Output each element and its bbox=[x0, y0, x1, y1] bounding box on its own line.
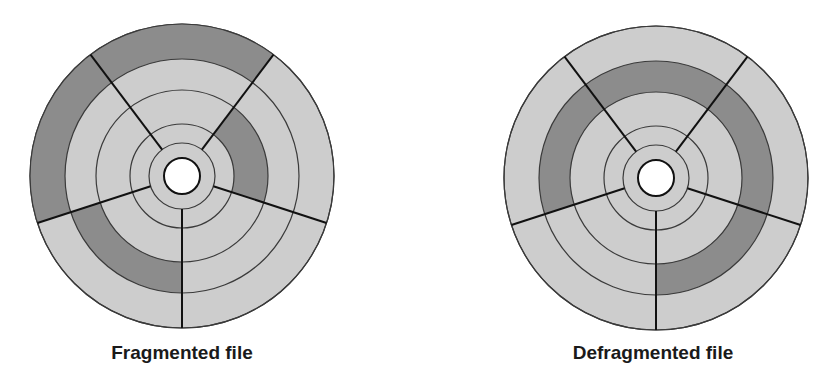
defragmented-file-label: Defragmented file bbox=[573, 342, 733, 364]
defragmented-disk bbox=[504, 26, 808, 330]
fragmented-file-label: Fragmented file bbox=[111, 342, 252, 364]
fragmented-disk bbox=[30, 24, 334, 328]
spindle-hole bbox=[164, 158, 200, 194]
disk-diagram bbox=[0, 0, 834, 374]
spindle-hole bbox=[638, 160, 674, 196]
